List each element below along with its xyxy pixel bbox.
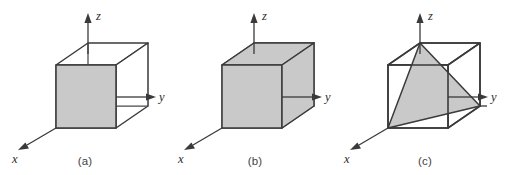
diagram-panel-a: z y x (a) [0,0,170,175]
y-axis-arrowhead-c [478,93,488,100]
x-axis-line-b [193,128,222,145]
y-axis-label-a: y [157,90,165,104]
diagram-panel-c: z y x (c) [340,0,510,175]
y-axis-label-b: y [323,90,331,104]
panel-caption-c: (c) [340,155,510,167]
z-axis-arrowhead-b [250,13,257,23]
x-axis-arrowhead-c [350,142,361,150]
x-axis-c [350,128,388,150]
y-axis-arrowhead-b [312,93,322,100]
z-axis-label-b: z [261,9,267,23]
diagram-panel-b: z y x (b) [170,0,340,175]
crystallographic-planes-figure: z y x (a) [0,0,511,175]
panel-caption-a: (a) [0,155,170,167]
z-axis-arrowhead-a [84,13,91,23]
y-axis-arrowhead-a [146,93,156,100]
shaded-plane-a [56,65,116,128]
x-axis-arrowhead-a [18,142,29,150]
z-axis-arrowhead-c [416,13,423,23]
z-axis-label-c: z [427,9,433,23]
x-axis-line-a [27,128,56,145]
x-axis-a [18,128,56,150]
shaded-front-face-b [222,65,282,128]
x-axis-line-c [359,128,388,145]
x-axis-b [184,128,222,150]
y-axis-label-c: y [489,90,497,104]
panel-caption-b: (b) [170,155,340,167]
z-axis-label-a: z [95,9,101,23]
x-axis-arrowhead-b [184,142,195,150]
